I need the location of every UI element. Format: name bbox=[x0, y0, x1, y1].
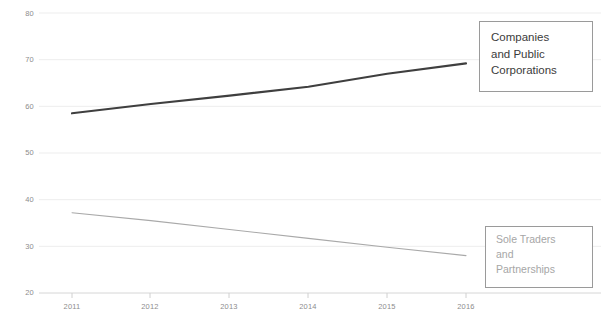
legend-lower-line-2: and bbox=[496, 247, 584, 262]
y-axis-label-80: 80 bbox=[8, 10, 34, 18]
y-axis-label-50: 50 bbox=[8, 149, 34, 157]
x-axis-label-2016: 2016 bbox=[446, 303, 486, 311]
y-axis-label-60: 60 bbox=[8, 103, 34, 111]
y-axis-label-30: 30 bbox=[8, 243, 34, 251]
legend-lower-line-3: Partnerships bbox=[496, 262, 584, 277]
y-axis-label-40: 40 bbox=[8, 196, 34, 204]
x-axis-label-2015: 2015 bbox=[367, 303, 407, 311]
y-axis-label-70: 70 bbox=[8, 56, 34, 64]
x-axis-label-2014: 2014 bbox=[288, 303, 328, 311]
x-axis-label-2013: 2013 bbox=[209, 303, 249, 311]
x-axis-label-2012: 2012 bbox=[130, 303, 170, 311]
legend-lower-line-1: Sole Traders bbox=[496, 232, 584, 247]
series-line-sole-traders-and-partnerships bbox=[72, 213, 466, 256]
line-chart: 80 70 60 50 40 30 20 2011 2012 2013 2014… bbox=[0, 0, 609, 327]
legend-upper-line-2: and Public bbox=[491, 46, 583, 63]
x-tick-marks bbox=[72, 293, 466, 298]
legend-sole-traders-and-partnerships: Sole Traders and Partnerships bbox=[485, 226, 593, 288]
x-axis-label-2011: 2011 bbox=[52, 303, 92, 311]
legend-upper-line-3: Corporations bbox=[491, 62, 583, 79]
legend-upper-line-1: Companies bbox=[491, 29, 583, 46]
legend-companies-and-public-corporations: Companies and Public Corporations bbox=[479, 21, 593, 92]
y-axis-label-20: 20 bbox=[8, 289, 34, 297]
